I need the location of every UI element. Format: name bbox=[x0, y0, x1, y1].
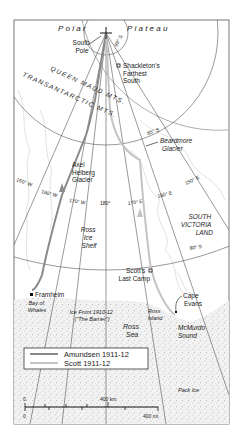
legend-scott-label: Scott 1911-12 bbox=[64, 359, 110, 368]
label-pack-ice: Pack Ice bbox=[178, 387, 199, 393]
label-plateau: Plateau bbox=[127, 24, 170, 33]
label-bay-of-whales: Bay of Whales bbox=[28, 300, 47, 313]
scale-km-label: 400 km bbox=[100, 396, 116, 402]
label-ross-island: Ross Island bbox=[148, 308, 164, 321]
label-framheim: Framheim bbox=[35, 291, 64, 298]
label-lon-180: 180° bbox=[100, 200, 110, 206]
scale-km-zero: 0 bbox=[23, 396, 26, 402]
scale-mi-zero: 0 bbox=[23, 413, 26, 419]
label-cape-evans: Cape Evans bbox=[183, 292, 203, 307]
label-ice-front: Ice Front 1910-12 ("The Barrier") bbox=[70, 309, 115, 322]
scott-last-camp-marker bbox=[149, 269, 152, 272]
antarctic-expedition-map: Polar Plateau QUEEN MAUD MTS. TRANSANTAR… bbox=[0, 0, 242, 446]
scale-mi-label: 400 mi bbox=[143, 413, 158, 419]
framheim-marker bbox=[30, 293, 33, 296]
label-polar: Polar bbox=[58, 24, 88, 33]
legend: Amundsen 1911-12 Scott 1911-12 bbox=[24, 348, 148, 369]
legend-amundsen-label: Amundsen 1911-12 bbox=[64, 350, 129, 359]
cape-evans-marker bbox=[175, 311, 177, 313]
shackleton-farthest-south-marker bbox=[117, 64, 120, 67]
